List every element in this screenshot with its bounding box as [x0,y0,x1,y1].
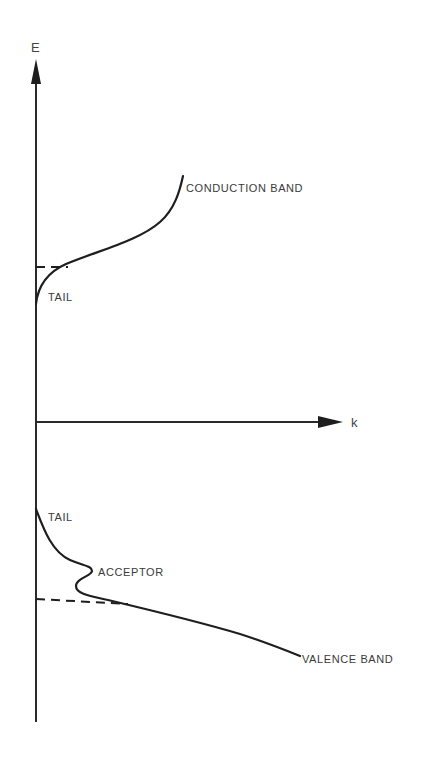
acceptor-label: ACCEPTOR [98,566,164,578]
energy-axis-arrow-icon [31,59,41,84]
conduction-band: CONDUCTION BAND TAIL [36,176,303,304]
conduction-band-label: CONDUCTION BAND [186,182,303,194]
conduction-band-curve [36,176,183,304]
conduction-tail-label: TAIL [48,291,73,303]
energy-axis: E [31,40,41,722]
k-axis-label: k [351,415,358,430]
valence-tail-label: TAIL [48,511,73,523]
valence-band-label: VALENCE BAND [302,653,393,665]
valence-band-curve [36,509,300,656]
band-structure-diagram: E k CONDUCTION BAND TAIL VALENCE BAND TA… [0,0,444,760]
k-axis-arrow-icon [318,416,343,428]
k-axis: k [36,415,358,430]
valence-band: VALENCE BAND TAIL ACCEPTOR [36,509,393,665]
energy-axis-label: E [31,40,40,55]
